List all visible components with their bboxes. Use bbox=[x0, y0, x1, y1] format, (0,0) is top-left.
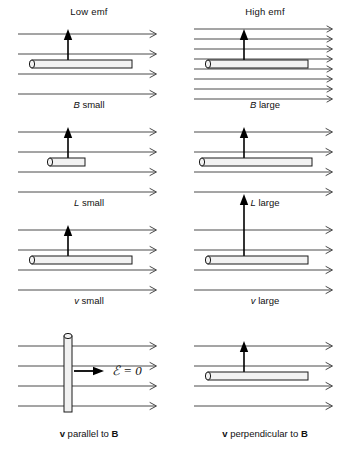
field-region-b-large bbox=[180, 26, 350, 96]
emf-comparison-figure: Low emf High emf bbox=[0, 0, 354, 461]
footer-v-perpendicular-to-b: v perpendicular to B bbox=[180, 428, 350, 439]
field-region-l-small bbox=[4, 124, 174, 194]
conducting-rod bbox=[47, 158, 85, 166]
conducting-rod bbox=[205, 256, 308, 264]
footer-vector-b: B bbox=[111, 428, 118, 439]
caption-v-large: v large bbox=[180, 295, 350, 306]
conducting-rod bbox=[29, 256, 132, 264]
field-region-v-perpendicular bbox=[180, 338, 350, 408]
emf-label: ℰ = 0 bbox=[112, 363, 142, 378]
field-region-v-large bbox=[180, 222, 350, 292]
conducting-rod bbox=[205, 60, 308, 68]
caption-l-small: L small bbox=[4, 197, 174, 208]
caption-l-large: L large bbox=[180, 197, 350, 208]
caption-text: small bbox=[82, 99, 104, 110]
conducting-rod bbox=[199, 158, 312, 166]
field-region-b-small bbox=[4, 26, 174, 96]
velocity-arrow-horizontal bbox=[74, 367, 104, 375]
caption-text: large bbox=[258, 197, 279, 208]
footer-v-parallel-to-b: v parallel to B bbox=[4, 428, 174, 439]
caption-b-large: B large bbox=[180, 99, 350, 110]
field-region-l-large bbox=[180, 124, 350, 194]
conducting-rod bbox=[29, 60, 132, 68]
caption-text: large bbox=[259, 99, 280, 110]
caption-text: large bbox=[258, 295, 279, 306]
conducting-rod-vertical bbox=[64, 333, 72, 412]
footer-vector-b: B bbox=[301, 428, 308, 439]
field-region-v-small bbox=[4, 222, 174, 292]
caption-text: small bbox=[82, 197, 104, 208]
conducting-rod bbox=[205, 372, 308, 380]
column-header-low-emf: Low emf bbox=[4, 6, 174, 17]
field-region-v-parallel: ℰ = 0 bbox=[4, 338, 174, 408]
footer-middle-text: parallel to bbox=[65, 428, 111, 439]
column-header-high-emf: High emf bbox=[180, 6, 350, 17]
footer-middle-text: perpendicular to bbox=[228, 428, 301, 439]
caption-b-small: B small bbox=[4, 99, 174, 110]
magnetic-field-lines bbox=[18, 129, 157, 196]
caption-text: small bbox=[82, 295, 104, 306]
caption-v-small: v small bbox=[4, 295, 174, 306]
